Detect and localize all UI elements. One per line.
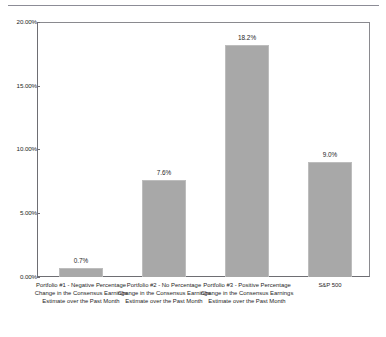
x-label-sp500: S&P 500: [283, 281, 377, 289]
bar-portfolio-2[interactable]: [142, 180, 186, 277]
header-divider: [8, 5, 379, 6]
y-tick-label: 5.00%: [3, 210, 37, 216]
y-tick-label: 10.00%: [3, 146, 37, 152]
bar-value-label-portfolio-1: 0.7%: [59, 258, 103, 264]
bar-portfolio-3[interactable]: [225, 45, 269, 277]
y-tick-label: 0.00%: [3, 274, 37, 280]
bar-portfolio-1[interactable]: [59, 268, 103, 277]
x-axis-labels: Portfolio #1 - Negative Percentage Chang…: [37, 281, 370, 333]
y-tick-label: 20.00%: [3, 19, 37, 25]
bar-sp500[interactable]: [308, 162, 352, 277]
bar-series: 0.7% 7.6% 18.2% 9.0%: [37, 22, 370, 277]
bar-value-label-sp500: 9.0%: [308, 152, 352, 158]
x-label-portfolio-3: Portfolio #3 - Positive Percentage Chang…: [200, 281, 294, 306]
y-axis: 20.00% 15.00% 10.00% 5.00% 0.00%: [0, 0, 37, 337]
y-tick-label: 15.00%: [3, 83, 37, 89]
x-label-portfolio-1: Portfolio #1 - Negative Percentage Chang…: [34, 281, 128, 306]
x-label-portfolio-2: Portfolio #2 - No Percentage Change in t…: [117, 281, 211, 306]
bar-chart-figure: 20.00% 15.00% 10.00% 5.00% 0.00% 0.7% 7.…: [0, 0, 386, 337]
bar-value-label-portfolio-2: 7.6%: [142, 170, 186, 176]
bar-value-label-portfolio-3: 18.2%: [225, 35, 269, 41]
y-tick-mark: [37, 277, 40, 278]
